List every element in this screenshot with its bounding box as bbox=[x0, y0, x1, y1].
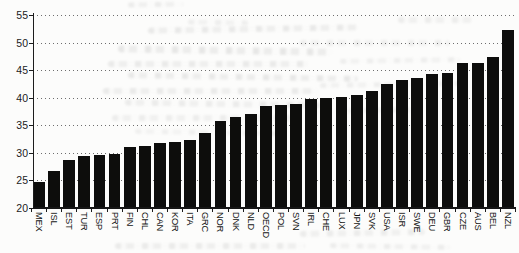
scan-artifact bbox=[108, 61, 308, 67]
bar-AUS bbox=[472, 63, 484, 208]
x-axis-label-JPN: JPN bbox=[352, 212, 362, 229]
bar-FIN bbox=[124, 147, 136, 208]
x-axis-label-FIN: FIN bbox=[125, 212, 135, 226]
bar-NOR bbox=[215, 121, 227, 208]
x-axis-label-ISR: ISR bbox=[397, 212, 407, 227]
x-axis-label-EST: EST bbox=[64, 212, 74, 229]
y-axis-label-50: 50 bbox=[6, 37, 28, 49]
bar-DNK bbox=[230, 117, 242, 207]
x-axis-label-NZL: NZL bbox=[503, 212, 513, 229]
bar-CHL bbox=[139, 146, 151, 208]
x-axis-label-POL: POL bbox=[276, 212, 286, 230]
x-axis-label-CZE: CZE bbox=[458, 212, 468, 230]
scan-artifact bbox=[103, 88, 318, 94]
y-axis-label-40: 40 bbox=[6, 92, 28, 104]
x-axis-label-GBR: GBR bbox=[442, 212, 452, 232]
bar-TUR bbox=[78, 156, 90, 207]
bar-ISR bbox=[396, 80, 408, 207]
x-axis-label-IRL: IRL bbox=[306, 212, 316, 226]
bar-PRT bbox=[109, 154, 121, 207]
scan-artifact bbox=[330, 243, 450, 250]
y-axis-label-30: 30 bbox=[6, 147, 28, 159]
x-axis-label-KOR: KOR bbox=[170, 212, 180, 232]
x-axis-label-ISL: ISL bbox=[49, 212, 59, 225]
x-axis-label-CAN: CAN bbox=[155, 212, 165, 231]
bar-EST bbox=[63, 160, 75, 207]
bar-BEL bbox=[487, 57, 499, 208]
x-axis-label-PRT: PRT bbox=[110, 212, 120, 230]
scan-artifact bbox=[398, 17, 473, 23]
bar-LUX bbox=[336, 97, 348, 208]
bar-DEU bbox=[426, 74, 438, 208]
x-axis-label-AUS: AUS bbox=[473, 212, 483, 231]
scan-artifact bbox=[118, 45, 333, 55]
x-axis-label-OECD: OECD bbox=[261, 212, 271, 238]
x-axis-line bbox=[33, 207, 516, 209]
x-axis-label-DEU: DEU bbox=[427, 212, 437, 231]
x-axis-tick bbox=[31, 208, 32, 212]
bar-SWE bbox=[411, 78, 423, 207]
x-axis-label-NOR: NOR bbox=[215, 212, 225, 232]
x-axis-label-TUR: TUR bbox=[79, 212, 89, 231]
x-axis-label-ESP: ESP bbox=[94, 212, 104, 230]
x-axis-label-USA: USA bbox=[382, 212, 392, 231]
bar-SVK bbox=[366, 91, 378, 207]
bar-ESP bbox=[94, 155, 106, 207]
x-axis-label-ITA: ITA bbox=[185, 212, 195, 225]
bar-CAN bbox=[154, 143, 166, 207]
gridline-45 bbox=[33, 70, 515, 71]
y-axis-label-25: 25 bbox=[6, 174, 28, 186]
y-axis-label-35: 35 bbox=[6, 119, 28, 131]
scan-artifact bbox=[128, 2, 183, 8]
x-axis-label-SWE: SWE bbox=[412, 212, 422, 233]
scan-artifact bbox=[115, 243, 305, 249]
bar-IRL bbox=[305, 99, 317, 207]
bar-POL bbox=[275, 105, 287, 207]
scan-artifact bbox=[128, 72, 358, 82]
bar-JPN bbox=[351, 95, 363, 207]
scan-artifact bbox=[148, 24, 358, 33]
y-axis-label-20: 20 bbox=[6, 202, 28, 214]
bar-ISL bbox=[48, 171, 60, 207]
bar-CZE bbox=[457, 63, 469, 207]
bar-NLD bbox=[245, 114, 257, 208]
scan-artifact bbox=[188, 20, 248, 26]
x-axis-label-GRC: GRC bbox=[200, 212, 210, 232]
y-axis-line bbox=[33, 13, 34, 209]
bar-NZL bbox=[502, 30, 514, 207]
x-axis-label-SVN: SVN bbox=[291, 212, 301, 231]
x-axis-label-DNK: DNK bbox=[231, 212, 241, 231]
gridline-50 bbox=[33, 43, 515, 44]
bar-GRC bbox=[199, 133, 211, 208]
bar-OECD bbox=[260, 106, 272, 207]
x-axis-label-MEX: MEX bbox=[34, 212, 44, 232]
bar-ITA bbox=[184, 140, 196, 208]
x-axis-label-CHE: CHE bbox=[321, 212, 331, 231]
scanned-chart-page: 2025303540455055MEXISLESTTURESPPRTFINCHL… bbox=[0, 0, 519, 253]
bar-CHE bbox=[320, 98, 332, 207]
y-axis-label-55: 55 bbox=[6, 9, 28, 21]
x-axis-label-CHL: CHL bbox=[140, 212, 150, 230]
x-axis-label-BEL: BEL bbox=[488, 212, 498, 229]
x-axis-label-SVK: SVK bbox=[367, 212, 377, 230]
x-axis-label-LUX: LUX bbox=[337, 212, 347, 230]
gridline-55 bbox=[33, 15, 515, 16]
scan-artifact bbox=[300, 229, 425, 237]
bar-SVN bbox=[290, 104, 302, 208]
bar-MEX bbox=[33, 182, 45, 208]
bar-USA bbox=[381, 84, 393, 208]
x-axis-label-NLD: NLD bbox=[246, 212, 256, 230]
bar-GBR bbox=[442, 73, 454, 208]
scan-artifact bbox=[340, 57, 460, 64]
bar-KOR bbox=[169, 142, 181, 207]
y-axis-label-45: 45 bbox=[6, 64, 28, 76]
